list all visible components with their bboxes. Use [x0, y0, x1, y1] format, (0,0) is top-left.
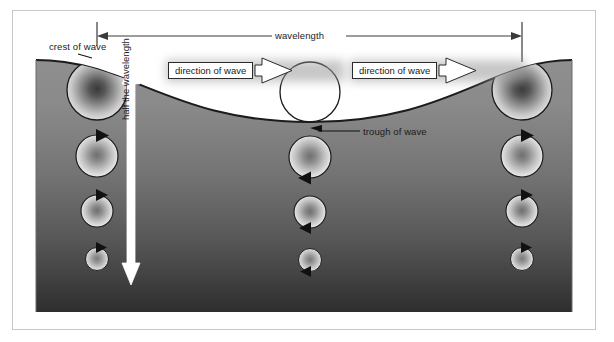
diagram-root: crest of wave wavelength trough of wave … [0, 0, 614, 342]
wavelength-measure [97, 22, 522, 62]
direction-of-wave-banner-left: direction of wave [168, 62, 253, 79]
trough-of-wave-label: trough of wave [363, 127, 427, 137]
direction-of-wave-banner-right: direction of wave [352, 62, 437, 79]
crest-of-wave-label: crest of wave [49, 42, 106, 52]
crest-leader [78, 54, 92, 58]
diagram-stage: crest of wave wavelength trough of wave … [0, 0, 614, 342]
wavelength-arrowhead-right-icon [511, 32, 522, 40]
orbit-circle [289, 136, 331, 178]
orbit-arrowhead-icon [96, 53, 111, 67]
wavelength-label: wavelength [275, 31, 324, 41]
half-the-wavelength-label: half the wavelength [120, 0, 131, 120]
crest-leader-line [78, 54, 92, 58]
wavelength-arrowhead-left-icon [97, 32, 108, 40]
